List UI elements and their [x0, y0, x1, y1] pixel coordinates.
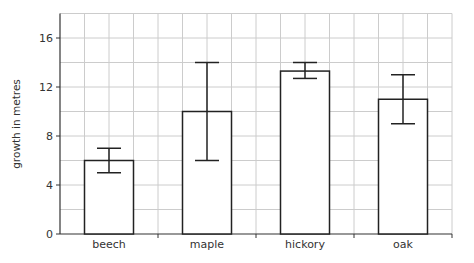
y-tick-label: 8	[46, 130, 53, 143]
y-tick-label: 16	[39, 32, 53, 45]
y-axis-title: growth in metres	[10, 79, 22, 169]
x-category-label: hickory	[285, 238, 325, 251]
y-tick-label: 4	[46, 179, 53, 192]
x-category-label: beech	[92, 238, 126, 251]
bar-hickory	[281, 71, 330, 234]
y-tick-label: 0	[46, 228, 53, 241]
x-category-label: maple	[190, 238, 224, 251]
x-category-label: oak	[393, 238, 413, 251]
bar-chart: 0481216beechmaplehickoryoak growth in me…	[0, 0, 474, 263]
y-tick-label: 12	[39, 81, 53, 94]
